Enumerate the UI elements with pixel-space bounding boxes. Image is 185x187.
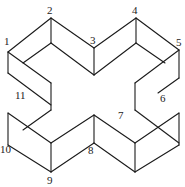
edge-line — [8, 145, 51, 172]
edge-line — [51, 43, 94, 75]
edge-line — [94, 18, 136, 48]
edge-line — [51, 18, 94, 48]
edge-line — [136, 43, 165, 63]
edge-line — [158, 78, 179, 93]
vertex-label-10: 10 — [0, 143, 12, 155]
edge-line — [51, 115, 94, 143]
edge-line — [94, 143, 135, 172]
vertex-label-5: 5 — [176, 36, 182, 48]
edge-line — [23, 43, 51, 63]
vertex-label-3: 3 — [90, 34, 96, 46]
edge-line — [8, 18, 51, 52]
vertex-label-6: 6 — [160, 92, 166, 104]
edge-line — [135, 50, 179, 83]
vertex-label-1: 1 — [4, 35, 10, 47]
edge-line — [94, 115, 135, 143]
vertex-label-2: 2 — [47, 4, 53, 16]
cross-prism-diagram: 1234567891011 — [0, 0, 185, 187]
vertex-label-4: 4 — [132, 4, 138, 16]
vertex-label-7: 7 — [118, 109, 124, 121]
vertex-label-9: 9 — [47, 174, 53, 186]
edge-line — [135, 145, 179, 172]
vertex-label-8: 8 — [88, 144, 94, 156]
vertex-label-11: 11 — [15, 89, 26, 101]
edge-line — [136, 18, 179, 50]
edge-line — [94, 43, 136, 75]
edge-line — [8, 113, 51, 143]
diagram-canvas: 1234567891011 — [0, 0, 185, 187]
